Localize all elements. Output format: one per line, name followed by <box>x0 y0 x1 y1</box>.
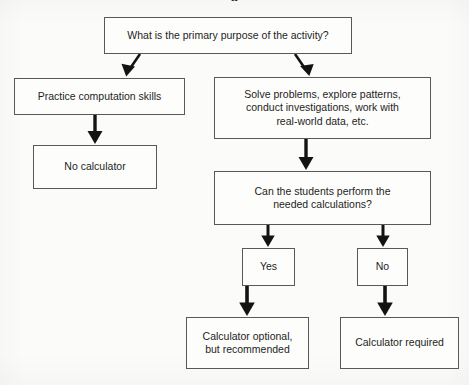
node-no-calculator-line-1: No calculator <box>64 160 125 174</box>
node-solve-line-2: conduct investigations, work with <box>244 101 400 115</box>
node-optional-line-2: but recommended <box>203 343 293 357</box>
node-solve-line-3: real-world data, etc. <box>244 115 400 129</box>
node-practice-line-1: Practice computation skills <box>38 90 162 104</box>
flowchart-page: g What is the pri <box>0 0 469 385</box>
node-required-line-1: Calculator required <box>355 336 444 350</box>
node-purpose-line-1: What is the primary purpose of the activ… <box>127 29 328 43</box>
node-calculator-optional[interactable]: Calculator optional, but recommended <box>186 317 309 369</box>
node-optional-line-1: Calculator optional, <box>203 330 293 344</box>
node-solve-line-1: Solve problems, explore patterns, <box>244 88 400 102</box>
node-can-students-perform[interactable]: Can the students perform the needed calc… <box>214 171 431 225</box>
node-yes-label: Yes <box>260 260 277 274</box>
node-solve-problems[interactable]: Solve problems, explore patterns, conduc… <box>214 77 431 139</box>
cropped-title-fragment: g <box>0 0 469 1</box>
node-yes[interactable]: Yes <box>242 248 295 286</box>
node-practice-computation-skills[interactable]: Practice computation skills <box>14 78 185 115</box>
node-can-perform-line-2: needed calculations? <box>255 198 391 212</box>
node-can-perform-line-1: Can the students perform the <box>255 185 391 199</box>
node-purpose[interactable]: What is the primary purpose of the activ… <box>104 17 352 54</box>
node-no-calculator[interactable]: No calculator <box>33 145 157 189</box>
node-no-label: No <box>376 260 389 274</box>
node-no[interactable]: No <box>357 248 408 286</box>
node-calculator-required[interactable]: Calculator required <box>340 317 459 369</box>
